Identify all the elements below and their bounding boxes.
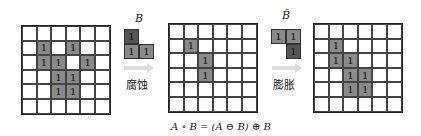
grid-a-cell — [66, 99, 81, 114]
grid-eroded-cell — [184, 24, 199, 39]
grid-a-cell: 1 — [51, 70, 66, 85]
grid-a-cell — [22, 99, 37, 114]
grid-opened-cell — [387, 39, 402, 54]
se-b-hat-cell: 1 — [286, 44, 301, 59]
grid-eroded-cell — [213, 24, 228, 39]
grid-a-cell — [80, 41, 95, 56]
grid-eroded-cell — [213, 82, 228, 97]
structuring-element-b-label: B — [135, 12, 143, 25]
grid-a-cell — [80, 26, 95, 41]
grid-opened-cell — [372, 24, 387, 39]
grid-a-cell — [37, 99, 52, 114]
se-b-hat-cell: 1 — [286, 29, 301, 44]
se-b-cell: 1 — [124, 29, 139, 44]
grid-opened-cell — [343, 97, 358, 112]
grid-opened-cell — [314, 68, 329, 83]
se-b-hat-cell — [271, 44, 286, 59]
grid-a-cell — [95, 55, 110, 70]
grid-a: 111111111 — [21, 25, 111, 115]
structuring-element-b-hat-label: B̂ — [282, 9, 290, 22]
grid-opened-cell — [372, 68, 387, 83]
grid-a-cell — [22, 26, 37, 41]
grid-eroded-cell — [242, 24, 257, 39]
se-b-hat-cell: 1 — [271, 29, 286, 44]
grid-eroded-cell — [169, 97, 184, 112]
grid-opened-cell — [387, 53, 402, 68]
grid-eroded-cell: 1 — [198, 53, 213, 68]
grid-a-cell: 1 — [80, 55, 95, 70]
grid-eroded-cell — [227, 24, 242, 39]
grid-opened-cell — [314, 39, 329, 54]
grid-eroded-cell — [242, 53, 257, 68]
dilation-label: 膨胀 — [273, 76, 295, 92]
grid-eroded-cell — [227, 53, 242, 68]
grid-eroded-cell — [242, 82, 257, 97]
grid-eroded-cell — [227, 97, 242, 112]
grid-eroded-cell — [227, 68, 242, 83]
grid-eroded-cell — [213, 39, 228, 54]
grid-eroded-cell — [227, 39, 242, 54]
grid-a-cell: 1 — [66, 84, 81, 99]
grid-a-cell — [95, 41, 110, 56]
grid-opened-cell — [314, 24, 329, 39]
grid-opened-cell — [358, 24, 373, 39]
grid-opened-cell — [329, 97, 344, 112]
grid-eroded-cell — [169, 53, 184, 68]
se-b-cell — [139, 29, 154, 44]
grid-opened-cell — [329, 82, 344, 97]
grid-a-cell — [51, 26, 66, 41]
grid-a-cell — [66, 26, 81, 41]
grid-eroded-cell — [184, 68, 199, 83]
grid-eroded-cell — [242, 68, 257, 83]
grid-opened-cell — [358, 53, 373, 68]
dilation-arrow-icon — [272, 66, 296, 70]
grid-a-cell — [80, 99, 95, 114]
grid-opened-cell — [387, 24, 402, 39]
grid-opened-cell — [314, 53, 329, 68]
grid-a-cell — [22, 55, 37, 70]
grid-eroded-cell — [213, 97, 228, 112]
grid-opened-cell — [314, 97, 329, 112]
grid-eroded-cell — [169, 82, 184, 97]
grid-a-cell — [95, 84, 110, 99]
grid-opened-cell: 1 — [329, 53, 344, 68]
grid-eroded-cell — [198, 97, 213, 112]
grid-a-cell: 1 — [51, 84, 66, 99]
grid-eroded-cell: 1 — [184, 39, 199, 54]
opening-formula: A ∘ B = (A ⊖ B) ⊕ B — [171, 121, 271, 132]
grid-a-cell — [51, 41, 66, 56]
grid-opened-cell — [372, 53, 387, 68]
grid-opened-cell — [372, 39, 387, 54]
erosion-arrow-icon — [124, 66, 148, 70]
grid-opened-cell: 1 — [343, 82, 358, 97]
grid-eroded-cell — [184, 97, 199, 112]
grid-a-cell — [95, 70, 110, 85]
grid-a-cell — [37, 26, 52, 41]
grid-a-cell — [51, 99, 66, 114]
grid-eroded: 111 — [168, 23, 258, 113]
grid-a-cell: 1 — [51, 55, 66, 70]
grid-opened-cell — [343, 24, 358, 39]
grid-opened-cell: 1 — [358, 82, 373, 97]
grid-opened: 1111111 — [313, 23, 403, 113]
se-b-cell: 1 — [139, 44, 154, 59]
grid-eroded-cell — [227, 82, 242, 97]
grid-opened-cell — [387, 68, 402, 83]
grid-eroded-cell — [184, 82, 199, 97]
grid-opened-cell — [387, 82, 402, 97]
grid-eroded-cell — [169, 39, 184, 54]
erosion-label: 腐蚀 — [126, 76, 148, 92]
grid-eroded-cell — [213, 53, 228, 68]
grid-eroded-cell — [169, 68, 184, 83]
grid-a-cell — [37, 84, 52, 99]
grid-eroded-cell: 1 — [198, 68, 213, 83]
grid-opened-cell — [372, 82, 387, 97]
grid-eroded-cell — [242, 39, 257, 54]
grid-a-cell — [66, 55, 81, 70]
grid-opened-cell: 1 — [358, 68, 373, 83]
grid-eroded-cell — [213, 68, 228, 83]
grid-a-cell — [22, 84, 37, 99]
grid-opened-cell — [314, 82, 329, 97]
grid-opened-cell — [343, 39, 358, 54]
grid-eroded-cell — [198, 24, 213, 39]
